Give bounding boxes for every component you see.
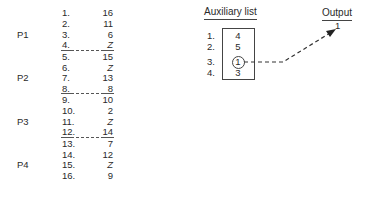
dashed-arrow-icon xyxy=(0,0,366,201)
